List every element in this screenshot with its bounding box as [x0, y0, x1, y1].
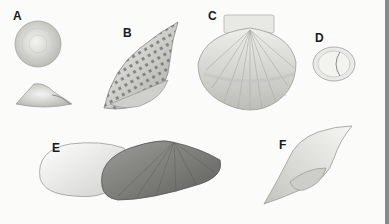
label-c: C: [208, 9, 217, 23]
label-e: E: [52, 141, 60, 155]
label-d: D: [315, 31, 324, 45]
shell-d: [313, 47, 355, 81]
shell-f: [264, 126, 352, 204]
label-f: F: [279, 138, 286, 152]
page-edge-divider: [385, 0, 389, 224]
shell-b: [104, 22, 178, 109]
label-a: A: [13, 9, 22, 23]
shell-illustrations: [0, 0, 389, 224]
shell-a-top: [15, 21, 61, 67]
shell-c: [198, 15, 296, 110]
shell-a-side: [16, 84, 72, 107]
shell-plate: A B C D E F: [0, 0, 389, 224]
label-b: B: [123, 26, 132, 40]
